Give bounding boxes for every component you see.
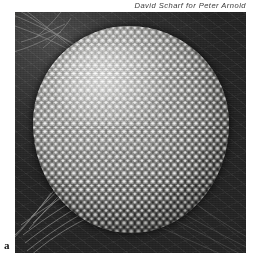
figure-panel-letter: a — [4, 240, 10, 251]
photo-credit: David Scharf for Peter Arnold — [134, 0, 246, 11]
eye-specular-highlight — [57, 43, 171, 130]
micrograph-image — [15, 12, 246, 253]
compound-eye — [33, 26, 229, 233]
